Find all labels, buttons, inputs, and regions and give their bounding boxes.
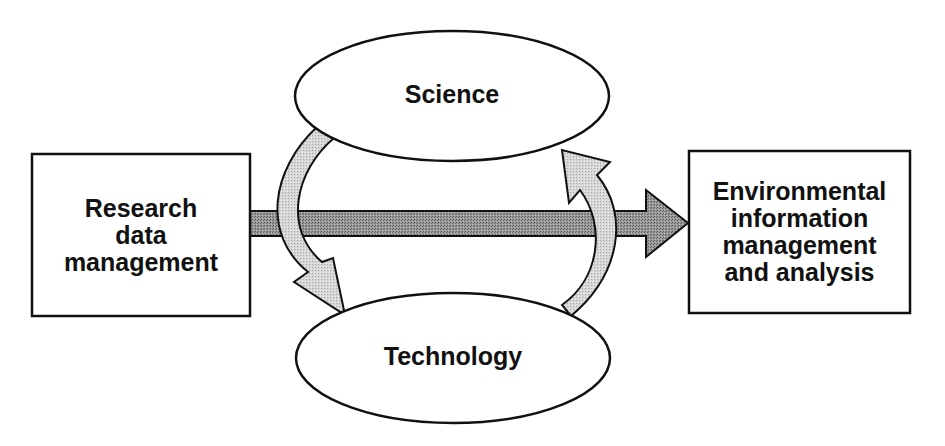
environmental-information-label: Environmental information management and… bbox=[691, 153, 908, 311]
science-label: Science bbox=[352, 76, 552, 112]
main-flow-arrow bbox=[250, 190, 688, 257]
technology-label: Technology bbox=[353, 338, 553, 374]
research-data-management-label: Research data management bbox=[34, 156, 248, 314]
